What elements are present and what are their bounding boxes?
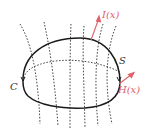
field-line [70, 24, 71, 128]
label-surface: S [119, 55, 126, 66]
field-line [96, 24, 103, 126]
vector-h [119, 73, 134, 85]
label-h: H(x) [117, 84, 140, 95]
hidden-boundary [24, 60, 120, 78]
arrowhead-icon [97, 16, 101, 22]
surface-boundary [23, 38, 120, 108]
field-line [44, 22, 58, 126]
label-i: I(x) [101, 9, 119, 20]
surface-diagram: I(x) H(x) S C [0, 0, 155, 137]
field-lines [20, 22, 116, 128]
field-line [83, 26, 85, 128]
vector-i [91, 16, 101, 40]
label-boundary: C [10, 81, 18, 92]
field-line [107, 26, 116, 124]
